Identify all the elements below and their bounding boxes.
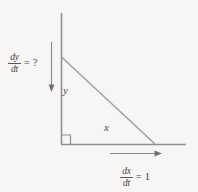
right-angle-marker-icon [62,135,71,144]
dx-dt-relation: = [136,172,142,183]
vertical-leg-label: y [63,85,68,96]
dy-dt-numerator: dy [9,52,20,62]
dy-dt-expression: dy dt = ? [8,52,37,75]
diagram-canvas [0,0,198,192]
dy-dt-denominator: dt [10,64,19,74]
dx-dt-expression: dx dt = 1 [120,166,150,189]
right-arrow-icon [110,151,162,157]
dy-dt-label: dy dt = ? [8,47,37,75]
horizontal-leg-label: x [104,122,109,133]
related-rates-diagram: dy dt = ? dx dt = 1 y x [0,0,198,192]
dx-dt-label: dx dt = 1 [120,161,150,189]
down-arrow-icon [49,42,55,92]
dy-dt-fraction: dy dt [8,52,21,75]
dx-dt-denominator: dt [122,178,131,188]
dy-dt-value: ? [33,58,38,70]
dx-dt-fraction: dx dt [120,166,133,189]
dy-dt-relation: = [24,58,30,69]
dx-dt-numerator: dx [121,166,132,176]
dx-dt-value: 1 [145,172,150,184]
